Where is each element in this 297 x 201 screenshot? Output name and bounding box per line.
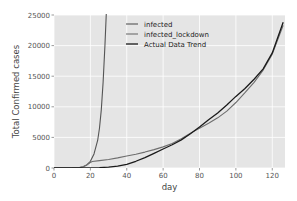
legend-label: infected_lockdown bbox=[144, 31, 209, 39]
y-axis-label: Total Confirmed cases bbox=[11, 44, 21, 139]
x-tick-label: 120 bbox=[266, 172, 279, 180]
legend-label: infected bbox=[144, 21, 173, 29]
y-tick-label: 0 bbox=[46, 165, 50, 173]
x-tick-label: 100 bbox=[229, 172, 242, 180]
y-tick-label: 5000 bbox=[32, 134, 50, 142]
y-tick-label: 20000 bbox=[28, 42, 50, 50]
y-axis-ticks: 0500010000150002000025000 bbox=[28, 12, 54, 173]
y-tick-label: 25000 bbox=[28, 12, 50, 20]
y-tick-label: 10000 bbox=[28, 103, 50, 111]
x-axis-label: day bbox=[162, 182, 178, 192]
x-tick-label: 60 bbox=[159, 172, 168, 180]
x-axis-ticks: 020406080100120 bbox=[52, 168, 279, 180]
y-tick-label: 15000 bbox=[28, 73, 50, 81]
line-chart: 020406080100120 050001000015000200002500… bbox=[0, 0, 297, 201]
x-tick-label: 80 bbox=[195, 172, 204, 180]
legend-label: Actual Data Trend bbox=[144, 41, 206, 49]
x-tick-label: 40 bbox=[122, 172, 131, 180]
x-tick-label: 20 bbox=[86, 172, 95, 180]
x-tick-label: 0 bbox=[52, 172, 56, 180]
